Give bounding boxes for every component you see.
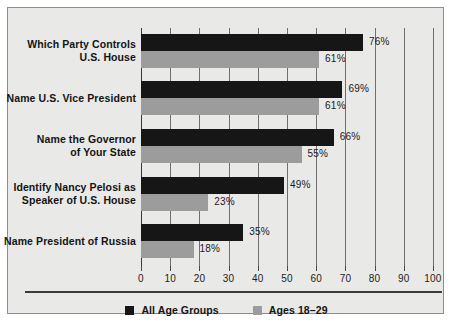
category-label-line: Name President of Russia <box>0 235 136 248</box>
bar-row: 76%61% <box>141 34 433 68</box>
tick-mark-90 <box>404 266 405 271</box>
tick-mark-50 <box>287 266 288 271</box>
tick-mark-80 <box>375 266 376 271</box>
bar-value-label-ages-18-29: 23% <box>214 196 235 207</box>
bar-value-label-ages-18-29: 55% <box>308 148 329 159</box>
legend-divider <box>25 291 442 293</box>
bar-row: 69%61% <box>141 81 433 115</box>
bar-value-label-ages-18-29: 18% <box>200 243 221 254</box>
bar-all-age-groups <box>141 177 284 194</box>
bar-ages-18-29 <box>141 194 208 211</box>
tick-label-100: 100 <box>413 273 453 284</box>
bar-ages-18-29 <box>141 146 302 163</box>
chart-legend: All Age Groups Ages 18–29 <box>8 304 445 316</box>
category-label-line: Name U.S. Vice President <box>0 92 136 105</box>
legend-swatch-icon-ages-18-29 <box>253 306 262 315</box>
gridline-100 <box>433 28 434 266</box>
category-label-line: U.S. House <box>0 51 136 64</box>
bar-ages-18-29 <box>141 241 194 258</box>
bar-value-label-all-age-groups: 69% <box>348 83 369 94</box>
category-label: Name President of Russia <box>0 235 136 248</box>
bar-value-label-all-age-groups: 49% <box>290 179 311 190</box>
bar-all-age-groups <box>141 34 363 51</box>
category-label-line: of Your State <box>0 146 136 159</box>
bar-value-label-all-age-groups: 66% <box>340 131 361 142</box>
bar-value-label-ages-18-29: 61% <box>325 100 346 111</box>
bar-all-age-groups <box>141 129 334 146</box>
category-label-line: Which Party Controls <box>0 38 136 51</box>
legend-label-ages-18-29: Ages 18–29 <box>269 304 328 316</box>
tick-mark-100 <box>433 266 434 271</box>
tick-mark-20 <box>199 266 200 271</box>
bar-ages-18-29 <box>141 98 319 115</box>
bar-all-age-groups <box>141 81 342 98</box>
chart-frame: Which Party ControlsU.S. HouseName U.S. … <box>7 7 444 314</box>
tick-mark-60 <box>316 266 317 271</box>
chart-figure: Which Party ControlsU.S. HouseName U.S. … <box>0 0 459 336</box>
plot-area: Which Party ControlsU.S. HouseName U.S. … <box>141 28 433 266</box>
tick-mark-70 <box>345 266 346 271</box>
category-label: Identify Nancy Pelosi asSpeaker of U.S. … <box>0 181 136 207</box>
tick-mark-40 <box>258 266 259 271</box>
bar-row: 49%23% <box>141 177 433 211</box>
bar-value-label-all-age-groups: 76% <box>369 36 390 47</box>
category-label-line: Identify Nancy Pelosi as <box>0 181 136 194</box>
bar-value-label-ages-18-29: 61% <box>325 53 346 64</box>
category-label: Name the Governorof Your State <box>0 133 136 159</box>
legend-item-ages-18-29: Ages 18–29 <box>253 304 328 316</box>
category-label: Name U.S. Vice President <box>0 92 136 105</box>
category-label-line: Speaker of U.S. House <box>0 194 136 207</box>
tick-mark-0 <box>141 266 142 271</box>
bar-row: 35%18% <box>141 224 433 258</box>
bar-ages-18-29 <box>141 51 319 68</box>
tick-mark-30 <box>229 266 230 271</box>
bar-value-label-all-age-groups: 35% <box>249 226 270 237</box>
legend-item-all-age-groups: All Age Groups <box>125 304 218 316</box>
bar-all-age-groups <box>141 224 243 241</box>
legend-label-all-age-groups: All Age Groups <box>141 304 218 316</box>
tick-mark-10 <box>170 266 171 271</box>
bar-row: 66%55% <box>141 129 433 163</box>
category-label-line: Name the Governor <box>0 133 136 146</box>
legend-swatch-icon-all-age-groups <box>125 306 134 315</box>
category-label: Which Party ControlsU.S. House <box>0 38 136 64</box>
category-axis-labels: Which Party ControlsU.S. HouseName U.S. … <box>0 28 136 266</box>
